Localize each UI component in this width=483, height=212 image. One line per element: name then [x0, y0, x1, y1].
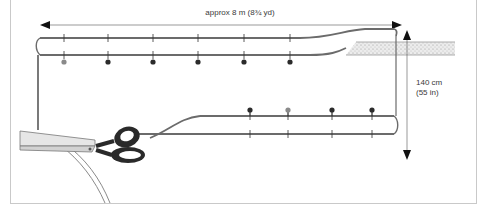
height-measurement-label: 140 cm (55 in)	[416, 78, 442, 98]
pin-icon	[285, 107, 290, 112]
cutting-table	[346, 42, 455, 55]
height-metric: 140 cm	[416, 78, 442, 88]
pin-icon	[329, 107, 334, 112]
width-dimension-arrow	[40, 21, 402, 29]
pin-icon	[247, 107, 252, 112]
pin-icon	[150, 59, 155, 64]
fabric-measurement-illustration	[0, 0, 483, 212]
pin-icon	[195, 59, 200, 64]
fabric-bottom-fold	[120, 116, 398, 138]
pin-icon	[105, 59, 110, 64]
height-imperial: (55 in)	[416, 88, 442, 98]
width-measurement-label: approx 8 m (8¾ yd)	[175, 8, 305, 18]
pin-icon	[369, 107, 374, 112]
fabric-top-fold	[36, 29, 396, 130]
pin-icon	[61, 59, 66, 64]
pin-icon	[287, 59, 292, 64]
pin-icon	[241, 59, 246, 64]
top-pins	[61, 59, 292, 64]
bottom-pins	[247, 107, 374, 116]
